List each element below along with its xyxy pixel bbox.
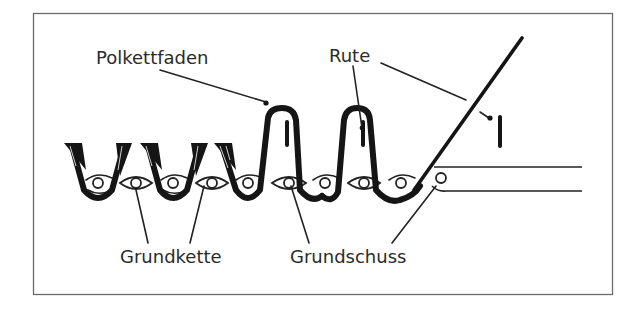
label-grundschuss: Grundschuss	[290, 246, 406, 267]
pile-fabric-diagram: Polkettfaden Rute Grundkette Grundschuss	[0, 0, 636, 310]
label-grundkette: Grundkette	[120, 246, 222, 267]
label-rute: Rute	[329, 45, 370, 66]
ground-warp-line-bottom	[432, 186, 582, 191]
label-polkettfaden: Polkettfaden	[96, 47, 208, 68]
